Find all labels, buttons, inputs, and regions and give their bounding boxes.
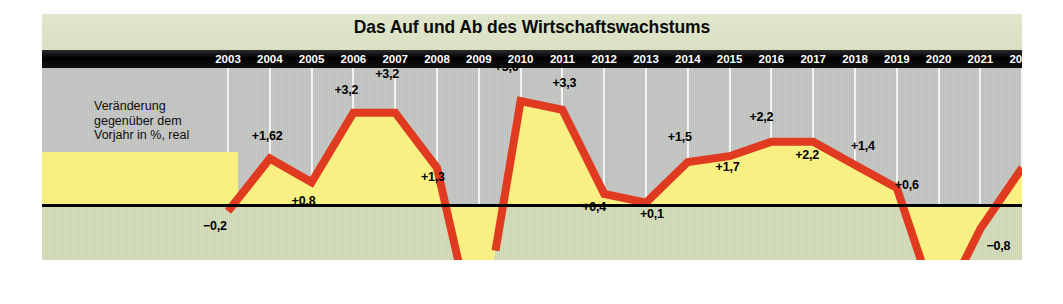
year-label-2008: 2008 bbox=[416, 52, 458, 66]
year-label-2009: 2009 bbox=[458, 52, 500, 66]
year-label-2016: 2016 bbox=[750, 52, 792, 66]
year-label-2005: 2005 bbox=[291, 52, 333, 66]
value-label-2010: +3,6 bbox=[495, 60, 519, 74]
year-label-2019: 2019 bbox=[876, 52, 918, 66]
year-label-2007: 2007 bbox=[374, 52, 416, 66]
value-label-2021: −0,8 bbox=[986, 239, 1010, 253]
value-label-2013: +0,1 bbox=[640, 207, 664, 221]
year-label-2020: 2020 bbox=[918, 52, 960, 66]
value-label-2006: +3,2 bbox=[334, 83, 358, 97]
year-label-2014: 2014 bbox=[667, 52, 709, 66]
year-label-2018: 2018 bbox=[834, 52, 876, 66]
value-label-2011: +3,3 bbox=[552, 76, 576, 90]
year-label-2006: 2006 bbox=[332, 52, 374, 66]
value-label-2012: +0,4 bbox=[582, 200, 606, 214]
growth-series bbox=[42, 68, 1022, 260]
value-label-2015: +1,7 bbox=[716, 160, 740, 174]
legend-line-2: gegenüber dem bbox=[94, 114, 244, 129]
year-label-2022: 2022 bbox=[1001, 52, 1022, 66]
year-label-2021: 2021 bbox=[959, 52, 1001, 66]
value-label-2017: +2,2 bbox=[795, 148, 819, 162]
year-label-2011: 2011 bbox=[541, 52, 583, 66]
zero-axis-line bbox=[42, 204, 1022, 207]
value-label-2008: +1,3 bbox=[421, 170, 445, 184]
year-label-2004: 2004 bbox=[249, 52, 291, 66]
page-title: Das Auf und Ab des Wirtschaftswachstums bbox=[42, 17, 1022, 38]
value-label-2003: −0,2 bbox=[203, 219, 227, 233]
plot-area bbox=[42, 68, 1022, 260]
value-label-2007: +3,2 bbox=[375, 67, 399, 81]
value-label-2004: +1,62 bbox=[252, 129, 283, 143]
year-label-2017: 2017 bbox=[792, 52, 834, 66]
legend-line-1: Veränderung bbox=[94, 99, 244, 114]
year-label-2013: 2013 bbox=[625, 52, 667, 66]
year-label-2015: 2015 bbox=[709, 52, 751, 66]
value-label-2014: +1,5 bbox=[668, 130, 692, 144]
year-label-2003: 2003 bbox=[207, 52, 249, 66]
legend-label: Veränderung gegenüber dem Vorjahr in %, … bbox=[94, 99, 244, 143]
value-label-2005: +0,8 bbox=[292, 194, 316, 208]
chart-panel: Das Auf und Ab des Wirtschaftswachstums … bbox=[42, 14, 1022, 260]
value-label-2019: +0,6 bbox=[895, 178, 919, 192]
year-label-2012: 2012 bbox=[583, 52, 625, 66]
value-label-2018: +1,4 bbox=[851, 139, 875, 153]
legend-line-3: Vorjahr in %, real bbox=[94, 128, 244, 143]
economic-growth-chart-figure: Das Auf und Ab des Wirtschaftswachstums … bbox=[0, 0, 1063, 304]
value-label-2016: +2,2 bbox=[749, 110, 773, 124]
title-band: Das Auf und Ab des Wirtschaftswachstums bbox=[42, 14, 1022, 50]
